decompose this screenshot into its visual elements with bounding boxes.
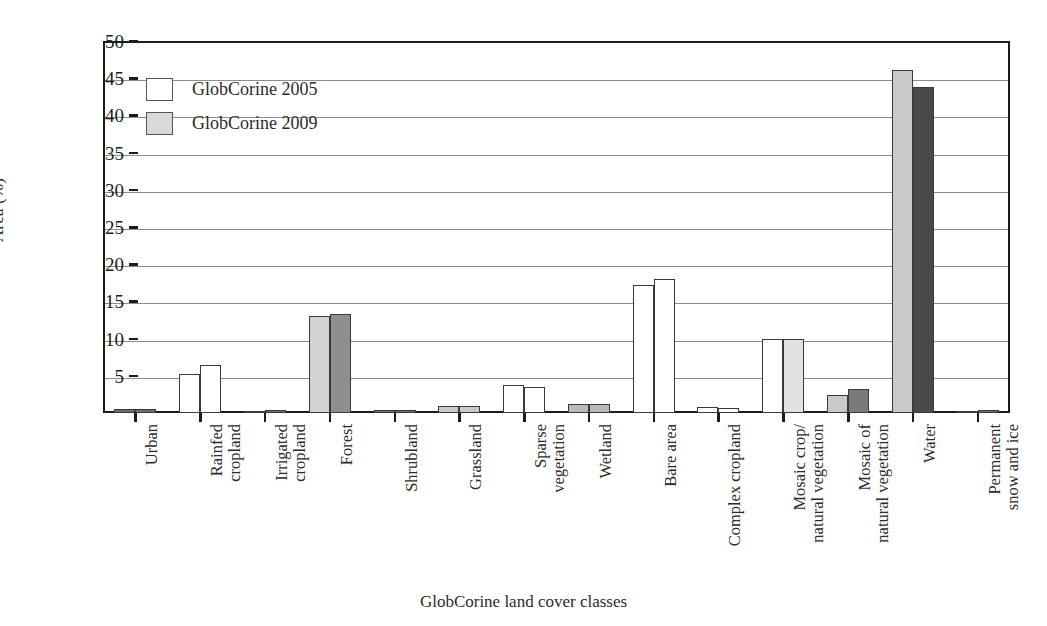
y-axis-title: Area (%) [0, 150, 8, 270]
gridline [105, 229, 1008, 230]
x-category-label: Irrigated cropland [273, 424, 310, 594]
x-category-label: Forest [338, 424, 356, 594]
y-tick-label: 5 [78, 366, 124, 385]
x-category-label: Mosaic crop/ natural vegetation [791, 424, 828, 594]
y-tick-label: 25 [78, 218, 124, 237]
x-tick-mark [588, 413, 591, 422]
y-tick-label: 10 [78, 329, 124, 348]
x-category-label: Mosaic of natural vegetation [856, 424, 893, 594]
gridline [105, 303, 1008, 304]
y-tick-label: 45 [78, 69, 124, 88]
y-tick-mark [129, 152, 138, 155]
gridline [105, 266, 1008, 267]
y-tick-label: 35 [78, 143, 124, 162]
gridline [105, 341, 1008, 342]
x-category-label: Shrubland [403, 424, 421, 594]
x-category-label: Wetland [597, 424, 615, 594]
gridline [105, 378, 1008, 379]
x-tick-mark [847, 413, 850, 422]
y-tick-mark [129, 375, 138, 378]
chart-figure: Area (%) 5101520253035404550 UrbanRainfe… [0, 0, 1047, 626]
x-tick-mark [199, 413, 202, 422]
legend-item: GlobCorine 2009 [146, 106, 318, 140]
x-tick-mark [782, 413, 785, 422]
y-tick-mark [129, 338, 138, 341]
legend-swatch-2009 [146, 112, 173, 135]
x-tick-mark [912, 413, 915, 422]
x-tick-mark [264, 413, 267, 422]
x-tick-mark [394, 413, 397, 422]
y-tick-label: 40 [78, 106, 124, 125]
x-category-label: Sparse vegetation [532, 424, 569, 594]
x-tick-mark [458, 413, 461, 422]
x-category-label: Bare area [662, 424, 680, 594]
x-category-label: Rainfed cropland [208, 424, 245, 594]
y-tick-mark [129, 226, 138, 229]
legend-swatch-2005 [146, 78, 173, 101]
y-tick-label: 50 [78, 32, 124, 51]
x-axis-title: GlobCorine land cover classes [0, 592, 1047, 612]
x-category-label: Water [921, 424, 939, 594]
y-tick-mark [129, 263, 138, 266]
x-tick-mark [653, 413, 656, 422]
legend-label-2005: GlobCorine 2005 [192, 80, 318, 98]
x-category-label: Complex cropland [726, 424, 744, 594]
y-tick-mark [129, 300, 138, 303]
x-tick-mark [134, 413, 137, 422]
x-category-label: Grassland [467, 424, 485, 594]
y-tick-mark [129, 114, 138, 117]
legend-label-2009: GlobCorine 2009 [192, 114, 318, 132]
gridline [105, 192, 1008, 193]
x-tick-mark [977, 413, 980, 422]
legend: GlobCorine 2005 GlobCorine 2009 [146, 72, 318, 140]
y-tick-label: 20 [78, 255, 124, 274]
legend-item: GlobCorine 2005 [146, 72, 318, 106]
y-tick-mark [129, 77, 138, 80]
y-tick-mark [129, 40, 138, 43]
x-tick-mark [329, 413, 332, 422]
x-category-label: Permanent snow and ice [986, 424, 1023, 594]
y-tick-label: 30 [78, 180, 124, 199]
x-category-label: Urban [143, 424, 161, 594]
y-tick-label: 15 [78, 292, 124, 311]
gridline [105, 155, 1008, 156]
y-tick-mark [129, 189, 138, 192]
x-tick-mark [523, 413, 526, 422]
x-tick-mark [717, 413, 720, 422]
